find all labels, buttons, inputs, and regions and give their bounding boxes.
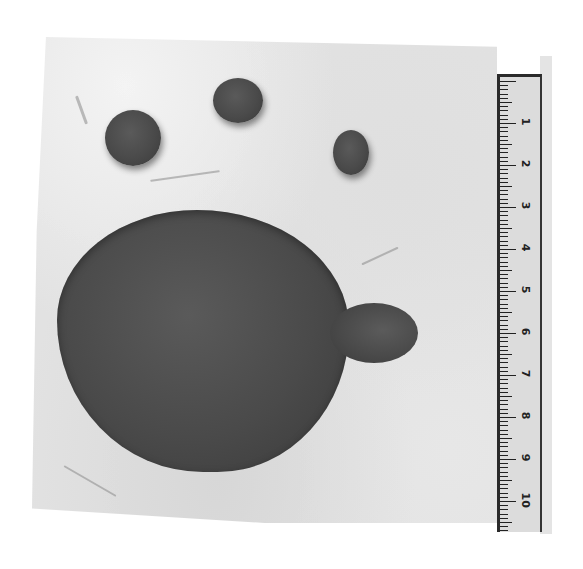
ruler-tick — [500, 186, 512, 187]
ruler-tick — [500, 199, 508, 200]
ruler-tick — [500, 337, 508, 338]
ruler-tick — [500, 375, 516, 376]
ruler-tick — [500, 438, 512, 439]
ruler-tick — [500, 241, 508, 242]
ruler-tick — [500, 178, 508, 179]
ruler-tick — [500, 283, 508, 284]
ruler-tick — [500, 98, 508, 99]
ruler-tick — [500, 413, 508, 414]
ruler-tick — [500, 190, 508, 191]
ruler-label: 2 — [519, 157, 532, 171]
ruler-tick — [500, 249, 516, 250]
ruler-tick — [500, 127, 508, 128]
ruler-tick — [500, 152, 508, 153]
ruler-tick — [500, 358, 508, 359]
ruler-tick — [500, 501, 516, 502]
ruler-label: 4 — [519, 241, 532, 255]
ruler-tick — [500, 131, 508, 132]
ruler-tick — [500, 173, 508, 174]
ruler-tick — [500, 287, 508, 288]
ruler-tick — [500, 505, 508, 506]
ruler-tick — [500, 304, 508, 305]
ruler-tick — [500, 123, 516, 124]
ruler-tick — [500, 400, 508, 401]
left-toe-print — [105, 110, 161, 166]
ruler-tick — [500, 493, 508, 494]
ruler-tick — [500, 451, 508, 452]
ruler-tick — [500, 295, 508, 296]
ruler-tick — [500, 207, 516, 208]
ruler-tick — [500, 463, 508, 464]
ruler-tick — [500, 102, 512, 103]
ruler-tick — [500, 392, 508, 393]
ruler-tick — [500, 476, 508, 477]
ruler-tick — [500, 94, 508, 95]
ruler-tick — [500, 459, 516, 460]
pad-lobe-print — [330, 303, 418, 363]
ruler-tick — [500, 346, 508, 347]
ruler-tick — [500, 509, 508, 510]
ruler-tick — [500, 211, 508, 212]
ruler-tick — [500, 472, 508, 473]
ruler-tick — [500, 148, 508, 149]
ruler-tick — [500, 484, 508, 485]
ruler-tick — [500, 333, 516, 334]
ruler-tick — [500, 526, 508, 527]
ruler-tick — [500, 224, 508, 225]
ruler-tick — [500, 274, 508, 275]
ruler-tick — [500, 320, 508, 321]
ruler-label: 1 — [519, 115, 532, 129]
ruler-tick — [500, 215, 508, 216]
ruler-label: 7 — [519, 367, 532, 381]
ruler-tick — [500, 316, 508, 317]
ruler-tick — [500, 257, 508, 258]
ruler-tick — [500, 497, 508, 498]
ruler-tick — [500, 140, 508, 141]
ruler-tick — [500, 518, 508, 519]
ruler-tick — [500, 329, 508, 330]
measuring-ruler: 1 2 3 4 5 6 7 8 9 10 — [497, 74, 542, 532]
ruler-tick — [500, 81, 516, 82]
ruler-tick — [500, 299, 508, 300]
ruler-tick — [500, 262, 508, 263]
ruler-tick — [500, 430, 508, 431]
ruler-tick — [500, 325, 508, 326]
ruler-tick — [500, 169, 508, 170]
ruler-label: 5 — [519, 283, 532, 297]
ruler-label: 10 — [519, 493, 532, 507]
ruler-tick — [500, 383, 508, 384]
ruler-tick — [500, 278, 508, 279]
ruler-tick — [500, 379, 508, 380]
ruler-tick — [500, 404, 508, 405]
ruler-tick — [500, 467, 508, 468]
ruler-tick — [500, 362, 508, 363]
ruler-tick — [500, 514, 508, 515]
ruler-tick — [500, 417, 516, 418]
ruler-tick — [500, 455, 508, 456]
ruler-tick — [500, 442, 508, 443]
ruler-label: 3 — [519, 199, 532, 213]
ruler-tick — [500, 220, 508, 221]
ruler-tick — [500, 388, 508, 389]
middle-toe-print — [213, 78, 263, 123]
ruler-tick — [500, 270, 512, 271]
ruler-tick — [500, 371, 508, 372]
ruler-tick — [500, 530, 508, 531]
ruler-tick — [500, 421, 508, 422]
ruler-tick — [500, 161, 508, 162]
ruler-tick — [500, 446, 508, 447]
ruler-tick — [500, 228, 512, 229]
ruler-tick — [500, 341, 508, 342]
ruler-tick — [500, 182, 508, 183]
ruler-tick — [500, 266, 508, 267]
ruler-tick — [500, 425, 508, 426]
ruler-tick — [500, 522, 512, 523]
ruler-tick — [500, 106, 508, 107]
ruler-tick — [500, 144, 512, 145]
ruler-tick — [500, 203, 508, 204]
ruler-tick — [500, 396, 512, 397]
ruler-tick — [500, 245, 508, 246]
ruler-tick — [500, 480, 512, 481]
ruler-tick — [500, 165, 516, 166]
ruler-tick — [500, 232, 508, 233]
